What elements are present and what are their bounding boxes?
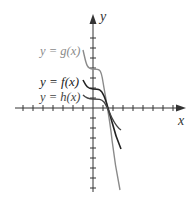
legend-label-f: y = f(x) bbox=[40, 75, 79, 88]
y-axis-arrow-icon bbox=[90, 14, 97, 24]
curve-g bbox=[83, 50, 120, 190]
legend-label-h: y = h(x) bbox=[40, 91, 80, 104]
curve-f bbox=[83, 80, 121, 149]
plot-area bbox=[0, 0, 193, 203]
x-axis bbox=[15, 105, 180, 111]
x-axis-label: x bbox=[178, 114, 184, 128]
curve-h bbox=[83, 95, 121, 130]
y-axis-label: y bbox=[100, 10, 106, 24]
chart: y = g(x) y = f(x) y = h(x) x y bbox=[0, 0, 193, 203]
x-axis-arrow-icon bbox=[176, 105, 186, 112]
y-axis bbox=[90, 22, 96, 192]
legend-label-g: y = g(x) bbox=[40, 45, 80, 58]
